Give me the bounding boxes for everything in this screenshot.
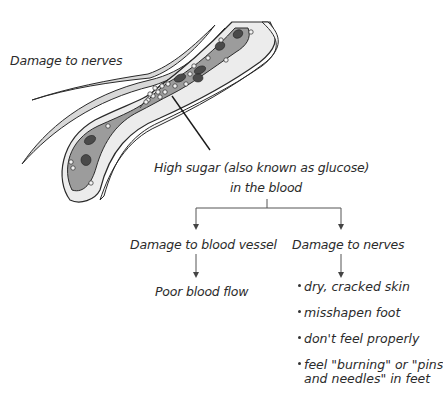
branch-blood-vessel-label: Damage to blood vessel	[130, 237, 277, 252]
bullet-icon	[298, 284, 301, 287]
outcome-item: feel "burning" or "pins	[298, 358, 443, 372]
outcome-item: don't feel properly	[298, 332, 443, 346]
outcome-item: misshapen foot	[298, 306, 443, 320]
outcome-item-continued: and needles" in feet	[298, 372, 443, 386]
bullet-icon	[298, 310, 301, 313]
branch-nerves-label: Damage to nerves	[292, 237, 404, 252]
branch-blood-vessel-outcome: Poor blood flow	[155, 284, 248, 299]
nerve-damage-label: Damage to nerves	[10, 53, 122, 68]
pointer-line	[172, 96, 210, 150]
outcome-item: dry, cracked skin	[298, 280, 443, 294]
root-node-line1: High sugar (also known as glucose)	[154, 160, 369, 175]
bullet-icon	[298, 336, 301, 339]
bullet-icon	[298, 362, 301, 365]
root-node-line2: in the blood	[230, 180, 302, 195]
nerve-damage-outcomes: dry, cracked skin misshapen foot don't f…	[298, 280, 443, 398]
